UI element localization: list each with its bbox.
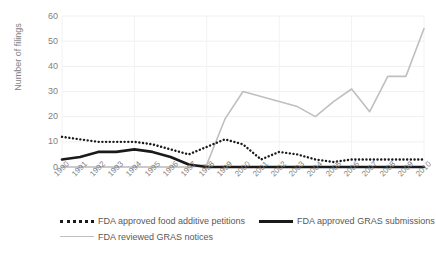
top-clipped-artifact [4, 0, 50, 6]
line-fda-approved-food-additive-petitions [62, 137, 424, 162]
legend-label-food-additive-petitions: FDA approved food additive petitions [98, 216, 245, 226]
y-axis-ticks: 0102030405060 [34, 16, 58, 167]
plot-area [62, 16, 424, 167]
series-lines [62, 16, 424, 167]
y-tick-label: 50 [36, 37, 58, 46]
y-tick-label: 10 [36, 137, 58, 146]
legend-row-first: FDA approved food additive petitions FDA… [60, 210, 436, 226]
solid-line-swatch-icon [259, 216, 293, 226]
chart-legend: FDA approved food additive petitions FDA… [60, 210, 436, 250]
y-axis-label: Number of filings [13, 12, 23, 102]
x-axis-ticks: 1990199119921993199419951996199719981999… [62, 170, 424, 204]
dotted-line-swatch-icon [60, 216, 94, 226]
y-tick-label: 20 [36, 112, 58, 121]
legend-label-gras-submissions: FDA approved GRAS submissions [297, 216, 435, 226]
thin-gray-line-swatch-icon [60, 232, 94, 242]
y-tick-label: 40 [36, 62, 58, 71]
y-tick-label: 60 [36, 12, 58, 21]
chart-container: Number of filings 0102030405060 19901991… [0, 0, 436, 255]
line-fda-reviewed-gras-notices [62, 29, 424, 167]
legend-row-second: FDA reviewed GRAS notices [60, 226, 436, 242]
y-tick-label: 30 [36, 87, 58, 96]
legend-item-gras-notices: FDA reviewed GRAS notices [60, 227, 213, 245]
legend-label-gras-notices: FDA reviewed GRAS notices [98, 232, 213, 242]
